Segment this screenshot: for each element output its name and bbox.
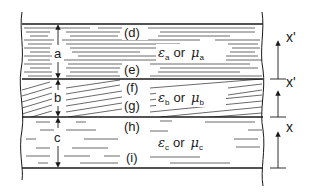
right-break-line <box>262 12 264 186</box>
interface-label-i: (i) <box>126 150 138 165</box>
property-layer-b: εborμb <box>158 90 204 107</box>
thickness-label-a: a <box>54 46 62 61</box>
interface-labels: (d) (e) (f) (g) (h) (i) <box>122 25 148 165</box>
axis-label-layer-b: x' <box>286 74 296 90</box>
interface-label-h: (h) <box>124 119 140 134</box>
interface-label-d: (d) <box>124 25 140 40</box>
thickness-label-c: c <box>54 130 61 145</box>
thickness-label-b: b <box>54 90 61 105</box>
property-labels: εaorμa εborμb εcorμc <box>156 44 226 152</box>
coordinate-axes <box>270 43 286 168</box>
property-layer-a: εaorμa <box>158 45 204 62</box>
interface-label-e: (e) <box>124 62 140 77</box>
interface-label-g: (g) <box>124 98 140 113</box>
axis-label-layer-c: x <box>286 119 293 135</box>
axis-labels: x' x' x <box>286 29 296 135</box>
layered-medium-diagram: a b c (d) (e) (f) (g) (h) (i) εaorμa εbo… <box>0 0 309 192</box>
interface-label-f: (f) <box>126 80 138 95</box>
thickness-labels: a b c <box>54 46 62 145</box>
property-layer-c: εcorμc <box>158 135 203 152</box>
axis-label-layer-a: x' <box>286 29 296 45</box>
